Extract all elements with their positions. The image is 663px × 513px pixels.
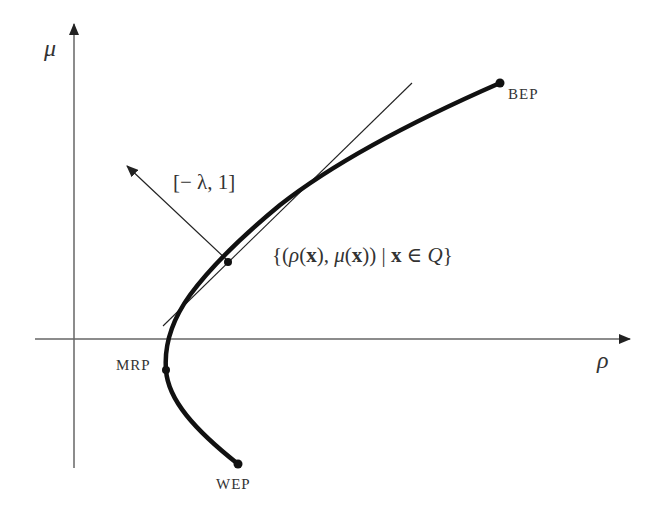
label-bep: BEP	[508, 87, 539, 102]
label-mrp: MRP	[116, 358, 151, 373]
x-axis-label: ρ	[597, 348, 609, 372]
tangent-line	[163, 83, 412, 326]
point-wep	[234, 460, 243, 469]
set-open: {(	[272, 243, 289, 267]
set-rho: ρ	[289, 243, 299, 267]
set-in: ∈	[401, 243, 427, 267]
point-bep	[496, 79, 505, 88]
set-bar: |	[376, 243, 391, 267]
label-wep: WEP	[216, 477, 251, 492]
set-paren2: (	[345, 243, 352, 267]
normal-vector-label: [− λ, 1]	[173, 172, 235, 193]
set-close2: ))	[362, 243, 376, 267]
set-x2: x	[352, 243, 363, 267]
set-x3: x	[391, 243, 402, 267]
tangent-point	[224, 258, 232, 266]
set-mu: μ	[329, 243, 345, 267]
set-x1: x	[306, 243, 317, 267]
set-q: Q	[427, 243, 442, 267]
frontier-curve	[166, 83, 500, 464]
set-end: }	[443, 243, 453, 267]
set-close1: ),	[317, 243, 329, 267]
y-axis-label: μ	[44, 36, 56, 60]
curve-set-label: {(ρ(x), μ(x)) | x ∈ Q}	[272, 245, 453, 266]
point-mrp	[162, 366, 170, 374]
